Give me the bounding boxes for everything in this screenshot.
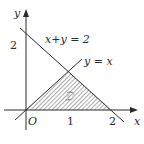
x-tick-2: 2 <box>109 115 116 128</box>
y-tick-2: 2 <box>10 39 17 52</box>
origin-label: O <box>28 115 37 128</box>
line-label-x-plus-y: x+y = 2 <box>45 33 90 46</box>
region-label: D <box>65 90 75 103</box>
x-axis-label: x <box>134 115 141 128</box>
y-axis-arrow-icon <box>23 9 29 17</box>
y-axis-label: y <box>13 7 21 20</box>
x-axis-arrow-icon <box>130 107 138 113</box>
line-label-y-eq-x: y = x <box>83 55 113 68</box>
region-diagram: y x O 1 2 2 x+y = 2 y = x D <box>0 0 144 144</box>
x-tick-1: 1 <box>67 115 74 128</box>
